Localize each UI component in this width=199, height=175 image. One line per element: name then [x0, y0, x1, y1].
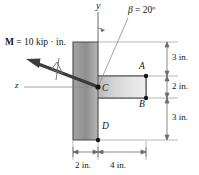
moment-label: M = 10 kip · in.: [5, 38, 66, 48]
beta-angle-label: β = 20º: [128, 6, 155, 16]
vertical-dimension-1: 3 in.: [172, 53, 188, 62]
point-d-marker: [96, 138, 100, 142]
moment-vector-arrowhead-primary: [26, 58, 41, 68]
horizontal-dimension-chain: [73, 147, 146, 157]
moment-value: = 10 kip · in.: [14, 37, 66, 47]
point-a-label: A: [139, 62, 145, 72]
beta-value: 20º: [143, 5, 155, 15]
moment-vector-double-barb: [56, 58, 59, 80]
beta-equals: =: [133, 5, 143, 15]
z-axis-label: z: [15, 81, 19, 90]
horizontal-dimension-1: 2 in.: [75, 161, 91, 170]
vertical-dimension-2: 2 in.: [172, 82, 188, 91]
point-b-label: B: [139, 100, 145, 110]
moment-symbol: M: [5, 37, 14, 47]
vertical-dimension-3: 3 in.: [172, 113, 188, 122]
cross-section-figure: y z β = 20º M = 10 kip · in. A B C D 3 i…: [0, 0, 199, 175]
figure-canvas: [0, 0, 199, 175]
point-c-label: C: [102, 84, 108, 94]
point-a-marker: [144, 74, 148, 78]
point-c-marker: [95, 84, 100, 89]
vertical-dimension-chain: [165, 42, 169, 140]
point-d-label: D: [102, 122, 109, 132]
y-axis-label: y: [96, 1, 100, 11]
horizontal-dimension-2: 4 in.: [110, 161, 126, 170]
